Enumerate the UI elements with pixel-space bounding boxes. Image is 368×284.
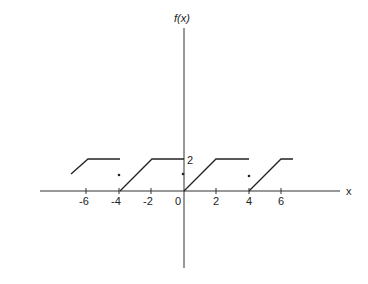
segment-c xyxy=(184,159,249,191)
segment-b xyxy=(120,159,184,191)
x-axis-label: x xyxy=(346,185,352,197)
segment-a xyxy=(71,159,120,174)
x-tick-label: -4 xyxy=(111,195,121,207)
segment-d xyxy=(249,159,293,191)
x-tick-label: 2 xyxy=(213,195,219,207)
function-curve xyxy=(71,159,293,191)
y-tick-label: 2 xyxy=(187,154,193,166)
x-tick-label: 4 xyxy=(246,195,252,207)
x-tick-label: 6 xyxy=(278,195,284,207)
x-tick-label: 0 xyxy=(175,195,181,207)
x-tick-label: -2 xyxy=(143,195,153,207)
y-axis-label: f(x) xyxy=(174,12,190,24)
x-tick-label: -6 xyxy=(79,195,89,207)
chart: -6 -4 -2 0 2 4 6 2 x f(x) xyxy=(0,0,368,284)
